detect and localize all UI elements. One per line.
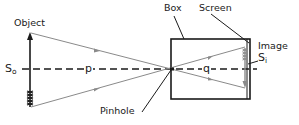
ray-arrow-icon: [94, 88, 100, 92]
image-size-sub: i: [265, 56, 267, 65]
object-distance-symbol: p: [84, 63, 93, 74]
pinhole-leader-line: [142, 70, 171, 112]
image-label: Image: [258, 41, 288, 51]
ray-arrow-icon: [208, 56, 213, 60]
screen-label: Screen: [199, 3, 232, 13]
ray-top: [31, 33, 245, 88]
object-label: Object: [14, 18, 45, 28]
ray-bottom: [31, 47, 245, 107]
box-leader-line: [174, 16, 184, 39]
image-size-main: S: [258, 51, 265, 64]
object-size-symbol: So: [4, 63, 18, 76]
image-size-symbol: Si: [257, 52, 268, 65]
box-label: Box: [164, 3, 182, 13]
object-size-main: S: [5, 62, 12, 75]
image-distance-symbol: q: [202, 63, 211, 74]
ray-arrow-icon: [208, 77, 213, 81]
pinhole-camera-diagram: Object Box Screen Image Pinhole So Si p …: [0, 0, 299, 125]
pinhole-label: Pinhole: [100, 106, 135, 116]
object-size-sub: o: [12, 67, 17, 76]
